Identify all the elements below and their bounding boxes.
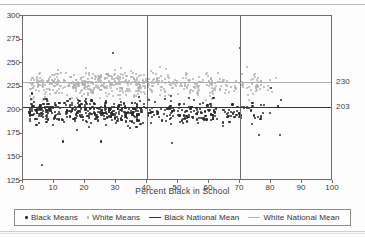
scatter-point — [160, 89, 162, 91]
scatter-point — [94, 103, 96, 105]
scatter-point-outlier — [112, 52, 114, 54]
scatter-point — [65, 72, 67, 74]
scatter-point — [209, 103, 211, 105]
scatter-point — [28, 111, 30, 113]
scatter-point — [33, 79, 35, 81]
scatter-point — [165, 68, 167, 70]
scatter-point — [39, 72, 41, 74]
scatter-point — [67, 85, 69, 87]
scatter-point — [76, 129, 78, 131]
scatter-point — [220, 85, 222, 87]
scatter-point — [219, 89, 221, 91]
legend-label: White National Mean — [263, 213, 339, 222]
scatter-point — [129, 90, 131, 92]
scatter-point — [177, 114, 179, 116]
scatter-point — [148, 78, 150, 80]
scatter-point — [75, 90, 77, 92]
scatter-point — [63, 79, 65, 81]
scatter-point — [235, 87, 237, 89]
scatter-point — [29, 88, 31, 90]
scatter-point — [38, 122, 40, 124]
scatter-point — [214, 115, 216, 117]
scatter-point — [214, 89, 216, 91]
scatter-point — [206, 84, 208, 86]
scatter-point — [85, 72, 87, 74]
scatter-point — [123, 102, 125, 104]
scatter-point — [164, 95, 166, 97]
scatter-point — [140, 111, 142, 113]
scatter-point — [222, 125, 224, 127]
scatter-point — [193, 110, 195, 112]
scatter-point — [130, 83, 132, 85]
scatter-point — [120, 67, 122, 69]
scatter-point — [138, 96, 140, 98]
scan-rule-bottom-secondary — [0, 233, 365, 234]
scatter-point — [157, 111, 159, 113]
scatter-point — [135, 84, 137, 86]
scatter-point — [138, 119, 140, 121]
scatter-point-outlier — [100, 140, 102, 142]
scatter-point — [190, 111, 192, 113]
scatter-point — [216, 118, 218, 120]
scatter-point — [164, 109, 166, 111]
scatter-point — [111, 90, 113, 92]
scatter-point — [86, 115, 88, 117]
scatter-point — [184, 117, 186, 119]
scatter-point — [46, 88, 48, 90]
scatter-point — [125, 120, 127, 122]
x-tick-mark-90 — [301, 180, 302, 183]
scatter-point — [58, 88, 60, 90]
scatter-point — [74, 109, 76, 111]
scatter-point — [260, 84, 262, 86]
scatter-point — [207, 75, 209, 77]
scatter-point — [105, 124, 107, 126]
scatter-point — [79, 111, 81, 113]
scatter-point — [120, 101, 122, 103]
scatter-point — [205, 99, 207, 101]
scatter-point — [74, 120, 76, 122]
scatter-point — [88, 117, 90, 119]
scatter-point — [62, 87, 64, 89]
scatter-point — [120, 104, 122, 106]
scatter-point — [165, 120, 167, 122]
scatter-point — [116, 88, 118, 90]
scatter-point — [192, 90, 194, 92]
scatter-point — [54, 85, 56, 87]
white-national-mean-line — [23, 82, 331, 83]
scatter-point — [143, 74, 145, 76]
scatter-point — [56, 90, 58, 92]
scatter-point — [226, 116, 228, 118]
scatter-point — [88, 74, 90, 76]
scatter-point — [269, 79, 271, 81]
scatter-point — [253, 114, 255, 116]
scatter-point — [257, 77, 259, 79]
scatter-point — [209, 92, 211, 94]
scatter-point — [202, 117, 204, 119]
scatter-point — [119, 83, 121, 85]
scatter-point — [79, 92, 81, 94]
scatter-point — [263, 86, 265, 88]
scatter-point — [38, 115, 40, 117]
scatter-point — [161, 119, 163, 121]
scatter-point — [157, 83, 159, 85]
scatter-point — [65, 104, 67, 106]
scatter-point — [42, 103, 44, 105]
y-tick-label-225: 225 — [0, 81, 20, 90]
scatter-point — [71, 110, 73, 112]
scatter-point — [186, 120, 188, 122]
scatter-point — [114, 117, 116, 119]
scatter-point — [153, 78, 155, 80]
x-tick-mark-20 — [84, 180, 85, 183]
scatter-point — [58, 102, 60, 104]
scatter-point — [38, 90, 40, 92]
scatter-point-outlier — [41, 164, 43, 166]
scatter-point — [198, 76, 200, 78]
scatter-point — [78, 85, 80, 87]
scatter-point — [52, 89, 54, 91]
scatter-point — [161, 86, 163, 88]
scatter-point — [144, 93, 146, 95]
legend-swatch-black-line-icon — [149, 217, 161, 219]
scatter-point — [106, 87, 108, 89]
scatter-point — [242, 86, 244, 88]
scatter-point — [136, 118, 138, 120]
